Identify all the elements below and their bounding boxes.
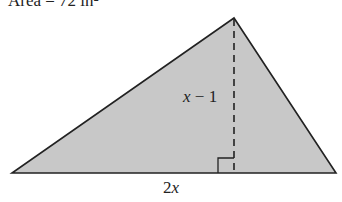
triangle-diagram: [0, 0, 342, 202]
height-expression: − 1: [191, 87, 218, 106]
height-variable: x: [183, 87, 191, 106]
base-label: 2x: [163, 178, 179, 198]
height-label: x − 1: [183, 87, 217, 107]
base-variable: x: [172, 178, 180, 197]
base-coefficient: 2: [163, 178, 172, 197]
triangle-shape: [12, 18, 336, 173]
